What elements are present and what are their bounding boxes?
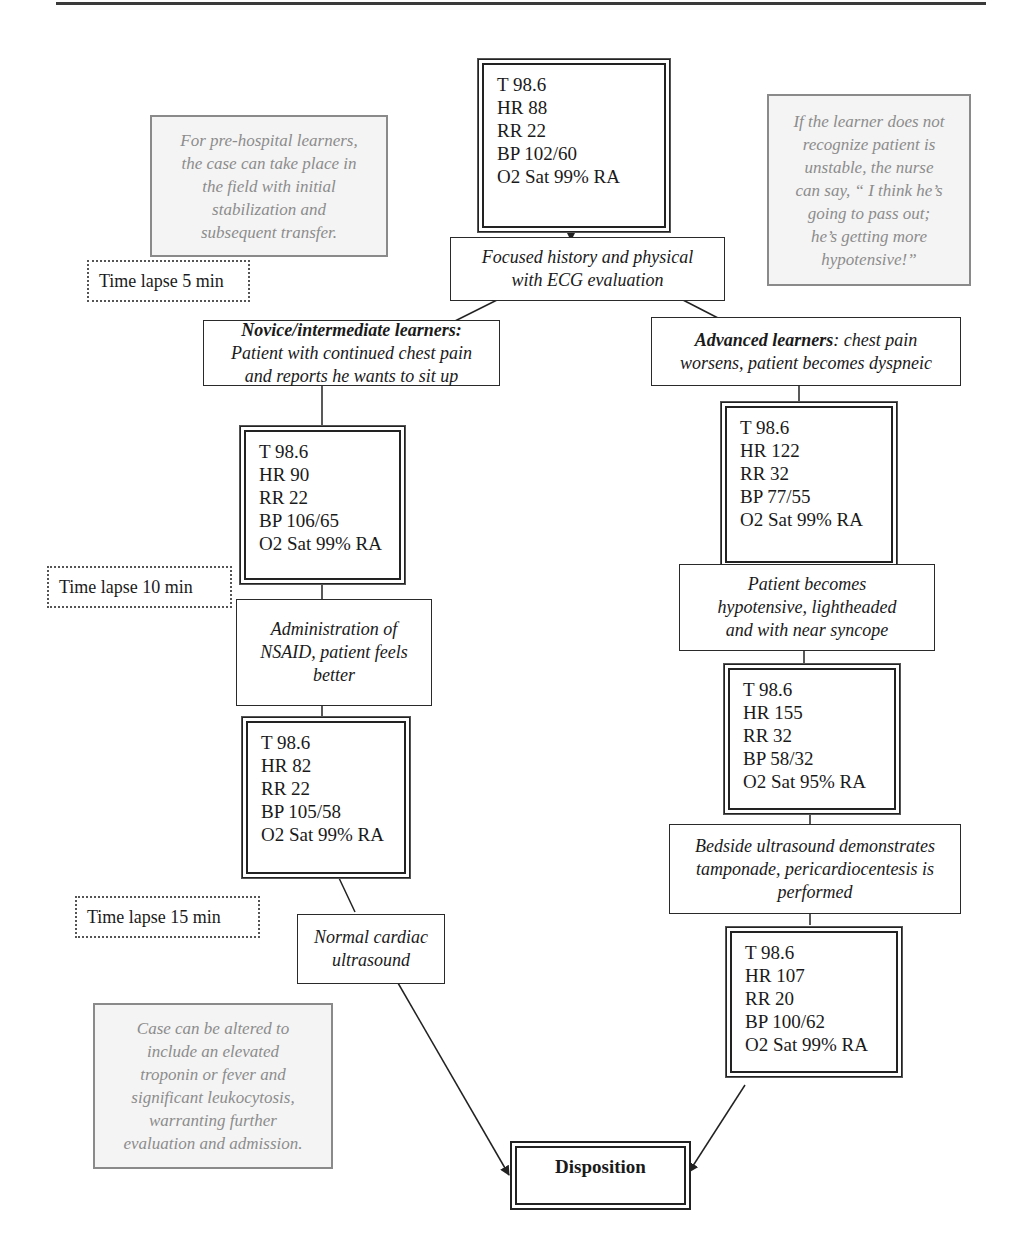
vital-bp: BP 102/60: [497, 142, 664, 165]
step-line: tamponade, pericardiocentesis is: [676, 858, 954, 881]
step-line: ultrasound: [304, 949, 438, 972]
advanced-vitals-1: T 98.6 HR 122 RR 32 BP 77/55 O2 Sat 99% …: [720, 401, 898, 568]
note-case-alteration: Case can be altered to include an elevat…: [93, 1003, 333, 1169]
step-line: worsens, patient becomes dyspneic: [658, 352, 954, 375]
step-line: Patient with continued chest pain: [210, 342, 493, 365]
vital-rr: RR 22: [261, 777, 404, 800]
vital-bp: BP 106/65: [259, 509, 399, 532]
vital-hr: HR 155: [743, 701, 894, 724]
note-line: include an elevated: [103, 1040, 323, 1063]
page-top-rule: [56, 2, 986, 5]
note-line: troponin or fever and: [103, 1063, 323, 1086]
vital-rr: RR 22: [259, 486, 399, 509]
step-line: and reports he wants to sit up: [210, 365, 493, 388]
step-line: hypotensive, lightheaded: [686, 596, 928, 619]
note-line: If the learner does not: [777, 110, 961, 133]
step-line: Bedside ultrasound demonstrates: [676, 835, 954, 858]
step-line: NSAID, patient feels: [243, 641, 425, 664]
vital-rr: RR 32: [740, 462, 891, 485]
note-line: significant leukocytosis,: [103, 1086, 323, 1109]
vital-bp: BP 105/58: [261, 800, 404, 823]
branch-title: Novice/intermediate learners:: [210, 319, 493, 342]
vital-o2: O2 Sat 99% RA: [740, 508, 891, 531]
note-line: going to pass out;: [777, 202, 961, 225]
vital-o2: O2 Sat 99% RA: [261, 823, 404, 846]
step-focused-history: Focused history and physical with ECG ev…: [450, 237, 725, 301]
advanced-step-hypotensive: Patient becomes hypotensive, lightheaded…: [679, 564, 935, 651]
note-line: unstable, the nurse: [777, 156, 961, 179]
note-line: the case can take place in: [160, 152, 378, 175]
vital-temp: T 98.6: [743, 678, 894, 701]
novice-step-nsaid: Administration of NSAID, patient feels b…: [236, 599, 432, 706]
note-line: evaluation and admission.: [103, 1132, 323, 1155]
time-lapse-15: Time lapse 15 min: [75, 896, 260, 938]
vital-temp: T 98.6: [745, 941, 896, 964]
note-line: the field with initial: [160, 175, 378, 198]
step-line: better: [243, 664, 425, 687]
vital-temp: T 98.6: [261, 731, 404, 754]
note-line: For pre-hospital learners,: [160, 129, 378, 152]
vital-rr: RR 22: [497, 119, 664, 142]
step-line: : chest pain: [833, 330, 917, 350]
step-line: and with near syncope: [686, 619, 928, 642]
vital-o2: O2 Sat 99% RA: [259, 532, 399, 555]
vital-o2: O2 Sat 95% RA: [743, 770, 894, 793]
advanced-branch-header: Advanced learners: chest pain worsens, p…: [651, 317, 961, 386]
step-line: Administration of: [243, 618, 425, 641]
vital-o2: O2 Sat 99% RA: [497, 165, 664, 188]
advanced-vitals-2: T 98.6 HR 155 RR 32 BP 58/32 O2 Sat 95% …: [723, 663, 901, 815]
note-line: warranting further: [103, 1109, 323, 1132]
vital-temp: T 98.6: [497, 73, 664, 96]
novice-vitals-2: T 98.6 HR 82 RR 22 BP 105/58 O2 Sat 99% …: [241, 716, 411, 879]
note-line: subsequent transfer.: [160, 221, 378, 244]
novice-vitals-1: T 98.6 HR 90 RR 22 BP 106/65 O2 Sat 99% …: [239, 425, 406, 585]
note-line: Case can be altered to: [103, 1017, 323, 1040]
vital-rr: RR 32: [743, 724, 894, 747]
step-line: performed: [676, 881, 954, 904]
novice-branch-header: Novice/intermediate learners: Patient wi…: [203, 320, 500, 386]
start-vitals-box: T 98.6 HR 88 RR 22 BP 102/60 O2 Sat 99% …: [477, 58, 671, 233]
vital-hr: HR 82: [261, 754, 404, 777]
vital-temp: T 98.6: [259, 440, 399, 463]
novice-step-normal-ultrasound: Normal cardiac ultrasound: [297, 914, 445, 984]
note-line: he’s getting more: [777, 225, 961, 248]
disposition-box: Disposition: [510, 1141, 691, 1210]
time-lapse-10: Time lapse 10 min: [47, 566, 232, 608]
note-line: can say, “ I think he’s: [777, 179, 961, 202]
branch-title: Advanced learners: [695, 330, 834, 350]
step-line: Focused history and physical: [457, 246, 718, 269]
time-lapse-5: Time lapse 5 min: [87, 260, 250, 302]
vital-rr: RR 20: [745, 987, 896, 1010]
note-line: recognize patient is: [777, 133, 961, 156]
vital-temp: T 98.6: [740, 416, 891, 439]
note-line: hypotensive!”: [777, 248, 961, 271]
step-line: Patient becomes: [686, 573, 928, 596]
vital-hr: HR 88: [497, 96, 664, 119]
note-prehospital: For pre-hospital learners, the case can …: [150, 115, 388, 257]
vital-bp: BP 58/32: [743, 747, 894, 770]
note-nurse-prompt: If the learner does not recognize patien…: [767, 94, 971, 286]
advanced-step-pericardiocentesis: Bedside ultrasound demonstrates tamponad…: [669, 824, 961, 914]
vital-hr: HR 90: [259, 463, 399, 486]
branch-title-line: Advanced learners: chest pain: [658, 329, 954, 352]
step-line: with ECG evaluation: [457, 269, 718, 292]
step-line: Normal cardiac: [304, 926, 438, 949]
vital-bp: BP 77/55: [740, 485, 891, 508]
vital-bp: BP 100/62: [745, 1010, 896, 1033]
note-line: stabilization and: [160, 198, 378, 221]
advanced-vitals-3: T 98.6 HR 107 RR 20 BP 100/62 O2 Sat 99%…: [725, 926, 903, 1078]
vital-hr: HR 122: [740, 439, 891, 462]
vital-hr: HR 107: [745, 964, 896, 987]
vital-o2: O2 Sat 99% RA: [745, 1033, 896, 1056]
